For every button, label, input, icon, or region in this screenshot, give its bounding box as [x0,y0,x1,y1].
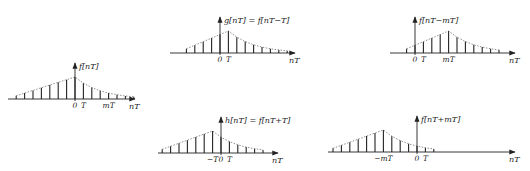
tick-label: T [423,154,429,163]
y-label: h[nT] = f[nT+T] [225,116,291,125]
tick-label: −mT [374,154,393,163]
envelope [407,31,499,50]
tick-label: 0 [73,101,78,110]
panel-g: g[nT] = f[nT−T]nT0T [170,16,300,65]
tick-label: 0 [413,55,418,64]
tick-label: T [81,101,87,110]
signal-shift-diagram: f[nT]nT0TmTg[nT] = f[nT−T]nT0Tf[nT−mT]nT… [0,0,530,171]
tick-label: mT [443,55,456,64]
tick-label: T [227,155,233,164]
tick-label: 0 [415,154,420,163]
tick-label: T [421,55,427,64]
panel-h: h[nT] = f[nT+T]nT−T0T [158,116,291,165]
tick-label: mT [103,101,116,110]
x-label: nT [272,156,283,165]
tick-label: −T [207,155,219,164]
y-label: f[nT−mT] [418,16,459,25]
y-label: f[nT] [78,62,100,71]
y-label: g[nT] = f[nT−T] [224,16,290,25]
x-label: nT [509,155,520,164]
tick-label: 0 [218,55,223,64]
x-label: nT [509,56,520,65]
tick-label: 0 [219,155,224,164]
x-label: nT [289,56,300,65]
panel-f: f[nT]nT0TmT [8,62,140,111]
diagram-canvas: f[nT]nT0TmTg[nT] = f[nT−T]nT0Tf[nT−mT]nT… [0,0,530,171]
tick-label: T [226,55,232,64]
panel-fm: f[nT−mT]nT0TmT [390,16,520,65]
panel-fp: f[nT+mT]nT−mT0T [328,115,520,164]
x-label: nT [129,102,140,111]
y-label: f[nT+mT] [420,115,461,124]
